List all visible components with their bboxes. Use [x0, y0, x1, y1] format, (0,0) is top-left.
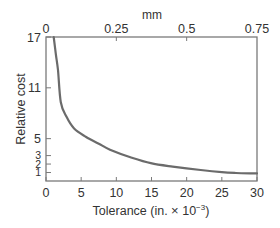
- y-tick-label: 3: [35, 149, 41, 161]
- x-tick-label: 5: [78, 186, 85, 200]
- x-axis-label-times: ×: [171, 203, 179, 218]
- y-tick-label: 17: [27, 31, 41, 45]
- top-tick-label: 0.5: [178, 22, 195, 36]
- chart: 051015202530 12351117 00.250.50.75 mm Re…: [0, 0, 280, 228]
- top-axis-label: mm: [142, 8, 162, 22]
- relative-cost-curve: [54, 37, 257, 173]
- top-tick-label: 0.25: [104, 22, 128, 36]
- y-axis-label: Relative cost: [14, 73, 28, 145]
- y-axis-ticks: 12351117: [27, 31, 51, 179]
- x-axis-label-main: Tolerance (in.: [93, 204, 172, 218]
- x-tick-label: 20: [180, 186, 194, 200]
- x-tick-label: 0: [43, 186, 50, 200]
- x-axis-label: Tolerance (in. × 10−3): [93, 203, 210, 218]
- y-tick-label: 11: [28, 81, 41, 95]
- top-mm-axis-ticks: 00.250.50.75: [43, 22, 270, 41]
- top-tick-label: 0: [43, 22, 50, 36]
- x-tick-label: 25: [215, 186, 229, 200]
- y-tick-label: 5: [34, 132, 41, 146]
- plot-border: [46, 37, 257, 181]
- plot-frame: [46, 37, 257, 181]
- x-tick-label: 30: [250, 186, 264, 200]
- x-axis-label-close: ): [205, 204, 209, 218]
- x-tick-label: 15: [145, 186, 159, 200]
- top-tick-label: 0.75: [245, 22, 269, 36]
- x-tick-label: 10: [109, 186, 123, 200]
- x-axis-label-base: 10: [179, 204, 196, 218]
